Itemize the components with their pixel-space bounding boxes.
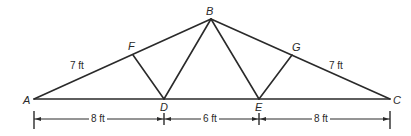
length-label-gc: 7 ft — [329, 61, 343, 71]
node-label-a: A — [23, 95, 30, 106]
dimension-label-ec: 8 ft — [312, 114, 330, 124]
length-label-af: 7 ft — [70, 61, 84, 71]
arrowhead-icon — [35, 117, 41, 121]
node-label-e: E — [255, 102, 262, 113]
member-AB — [34, 19, 211, 99]
dimension-label-de: 6 ft — [201, 114, 219, 124]
arrowhead-icon — [165, 117, 171, 121]
member-BE — [211, 19, 259, 99]
arrowhead-icon — [260, 117, 266, 121]
member-EG — [259, 55, 292, 99]
node-label-g: G — [292, 42, 301, 53]
member-BC — [211, 19, 390, 99]
arrowhead-icon — [383, 117, 389, 121]
node-label-f: F — [128, 41, 135, 52]
node-label-c: C — [393, 95, 401, 106]
member-DB — [164, 19, 211, 99]
arrowhead-icon — [157, 117, 163, 121]
dimension-label-ad: 8 ft — [89, 114, 107, 124]
node-label-b: B — [206, 6, 213, 17]
arrowhead-icon — [252, 117, 258, 121]
member-FD — [133, 55, 164, 99]
node-label-d: D — [160, 102, 168, 113]
truss-diagram: A B C D E F G 7 ft 7 ft 8 ft 6 ft 8 ft — [0, 0, 411, 136]
